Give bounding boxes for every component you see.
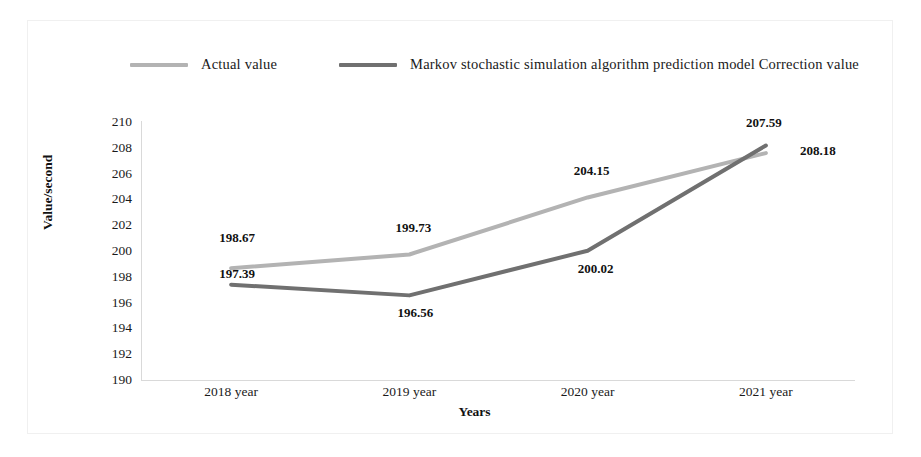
legend-label-actual-value: Actual value (201, 56, 277, 73)
y-tick-label: 196 (92, 295, 132, 311)
x-tick-label: 2021 year (739, 384, 793, 400)
chart-lines (142, 122, 855, 380)
legend-entry-correction-value: Markov stochastic simulation algorithm p… (339, 56, 859, 73)
y-tick-label: 202 (92, 217, 132, 233)
y-tick-label: 210 (92, 114, 132, 130)
data-label: 207.59 (746, 115, 782, 131)
data-label: 200.02 (578, 261, 614, 277)
x-tick-label: 2018 year (204, 384, 258, 400)
data-label: 204.15 (574, 163, 610, 179)
y-tick-label: 192 (92, 346, 132, 362)
data-label: 199.73 (396, 220, 432, 236)
plot-area: 198.67199.73204.15207.59197.39196.56200.… (142, 122, 855, 380)
legend-entry-actual-value: Actual value (130, 56, 277, 73)
series-line-correction (231, 145, 766, 295)
y-tick-label: 190 (92, 372, 132, 388)
y-tick-label: 198 (92, 269, 132, 285)
data-label: 197.39 (219, 266, 255, 282)
data-label: 196.56 (398, 305, 434, 321)
chart-legend: Actual value Markov stochastic simulatio… (130, 56, 859, 73)
x-tick-label: 2020 year (561, 384, 615, 400)
data-label: 208.18 (800, 143, 836, 159)
y-axis-tick-labels: 210208206204202200198196194192190 (92, 122, 132, 380)
legend-line-swatch-icon (130, 63, 188, 67)
y-tick-label: 200 (92, 243, 132, 259)
x-axis-tick-labels: 2018 year2019 year2020 year2021 year (142, 384, 855, 406)
y-tick-label: 204 (92, 191, 132, 207)
x-axis-line (141, 380, 855, 381)
chart-figure: Actual value Markov stochastic simulatio… (0, 0, 921, 457)
series-line-actual (231, 153, 766, 268)
y-tick-label: 206 (92, 166, 132, 182)
legend-line-swatch-icon (339, 63, 397, 67)
y-axis-title: Value/second (40, 155, 56, 230)
y-tick-label: 208 (92, 140, 132, 156)
data-label: 198.67 (219, 230, 255, 246)
legend-label-correction-value: Markov stochastic simulation algorithm p… (410, 56, 859, 73)
x-tick-label: 2019 year (383, 384, 437, 400)
x-axis-title: Years (0, 404, 921, 420)
y-tick-label: 194 (92, 320, 132, 336)
